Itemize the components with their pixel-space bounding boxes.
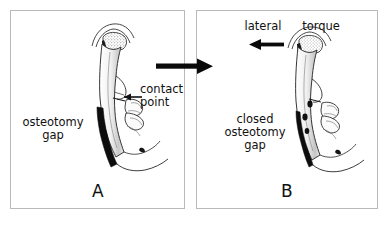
panel-b	[196, 10, 378, 209]
label-contact-point: contact point	[140, 83, 188, 109]
panel-a-letter: A	[92, 181, 104, 201]
panel-b-letter: B	[281, 181, 293, 201]
label-osteotomy-gap: osteotomy gap	[13, 116, 93, 142]
label-lateral: lateral	[238, 20, 288, 33]
label-torque: torque	[297, 20, 345, 33]
panel-a	[10, 10, 185, 209]
label-closed-osteotomy-gap: closed osteotomy gap	[214, 113, 296, 152]
figure-root: osteotomy gap contact point A lateral to…	[0, 0, 389, 225]
